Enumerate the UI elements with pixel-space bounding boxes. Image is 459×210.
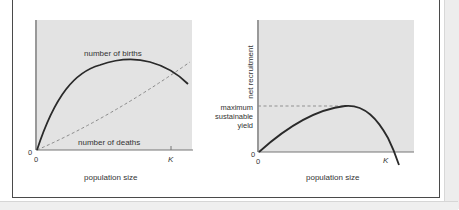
left-plot-area (37, 20, 192, 150)
right-x-origin: 0 (256, 157, 260, 166)
msy-label-line1: maximum (220, 103, 253, 112)
msy-label-line2: sustainable (215, 112, 253, 121)
right-chart: net recruitment maximum sustainable yiel… (215, 20, 414, 182)
births-label: number of births (84, 49, 142, 58)
left-chart: number of births number of deaths 0 0 K … (28, 20, 193, 182)
left-x-origin: 0 (34, 155, 38, 164)
right-y-origin: 0 (251, 150, 255, 159)
left-y-origin: 0 (28, 148, 32, 157)
left-x-label: population size (84, 173, 138, 182)
right-k-label: K (383, 156, 389, 165)
left-k-label: K (168, 155, 174, 164)
right-x-label: population size (306, 173, 360, 182)
msy-label-line3: yield (238, 121, 253, 130)
deaths-label: number of deaths (78, 138, 140, 147)
right-y-label: net recruitment (246, 45, 255, 99)
